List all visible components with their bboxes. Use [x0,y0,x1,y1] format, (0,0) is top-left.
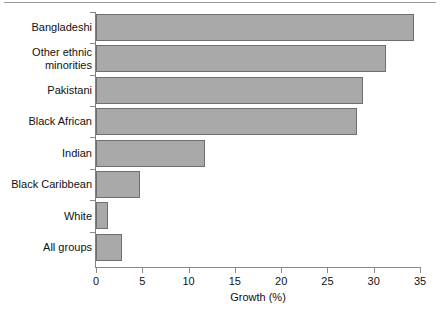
category-label: White [0,210,92,223]
x-tick-label: 30 [354,275,394,287]
x-tick-label: 5 [122,275,162,287]
y-tick [90,106,95,107]
x-tick [374,268,375,273]
bar-chart: BangladeshiOther ethnic minoritiesPakist… [0,0,440,314]
y-tick [90,75,95,76]
y-tick [90,12,95,13]
bar [96,140,205,167]
x-tick-label: 15 [215,275,255,287]
category-label: Other ethnic minorities [0,46,92,71]
bar [96,171,140,198]
category-label: Black Caribbean [0,178,92,191]
x-tick [96,268,97,273]
x-tick [235,268,236,273]
bar [96,202,108,229]
x-axis-line [95,267,421,268]
x-tick [420,268,421,273]
x-tick [142,268,143,273]
category-label: Pakistani [0,84,92,97]
x-tick [281,268,282,273]
x-tick [189,268,190,273]
bar [96,108,357,135]
y-tick [90,43,95,44]
x-tick-label: 10 [169,275,209,287]
y-tick [90,137,95,138]
x-tick-label: 25 [307,275,347,287]
y-tick [90,200,95,201]
top-divider-rule [4,2,436,3]
y-tick [90,232,95,233]
bar [96,234,122,261]
x-tick-label: 20 [261,275,301,287]
bar [96,77,363,104]
y-tick [90,169,95,170]
category-label: Indian [0,147,92,160]
category-label: All groups [0,241,92,254]
x-axis-title: Growth (%) [96,291,420,303]
x-tick [327,268,328,273]
x-tick-label: 0 [76,275,116,287]
category-label: Bangladeshi [0,21,92,34]
bar [96,14,414,41]
bar [96,45,386,72]
category-label: Black African [0,115,92,128]
x-tick-label: 35 [400,275,440,287]
